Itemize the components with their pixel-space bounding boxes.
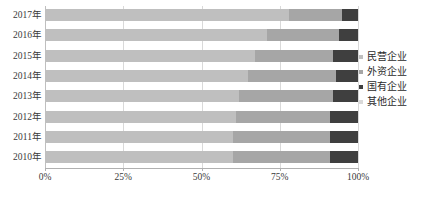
bar-segment-private (45, 70, 248, 82)
bar-segment-state-owned (330, 111, 358, 123)
x-tick-mark (280, 168, 281, 171)
bar-track (45, 29, 358, 41)
x-tick-label-100pct: 100% (335, 172, 381, 182)
legend-swatch-icon (359, 70, 363, 74)
bar-row (45, 151, 358, 163)
bar-segment-state-owned (339, 29, 358, 41)
legend-item[interactable]: 民营企业 (359, 49, 423, 64)
category-label-2016: 2016年 (0, 29, 42, 41)
bar-segment-private (45, 29, 267, 41)
plot-area (45, 6, 358, 168)
bar-row (45, 50, 358, 62)
bar-segment-foreign (267, 29, 339, 41)
category-label-2012: 2012年 (0, 111, 42, 123)
bar-segment-foreign (239, 90, 333, 102)
category-label-2010: 2010年 (0, 151, 42, 163)
bar-segment-private (45, 50, 255, 62)
bar-segment-state-owned (333, 50, 358, 62)
bar-track (45, 131, 358, 143)
bar-segment-state-owned (330, 131, 358, 143)
bar-track (45, 9, 358, 21)
bar-segment-private (45, 131, 233, 143)
bar-track (45, 50, 358, 62)
stacked-bar-chart: 民营企业外资企业国有企业其他企业 2017年2016年2015年2014年201… (0, 0, 423, 197)
bar-track (45, 111, 358, 123)
legend-label: 外资企业 (367, 64, 407, 79)
bar-row (45, 29, 358, 41)
legend-label: 国有企业 (367, 79, 407, 94)
legend-swatch-icon (359, 85, 363, 89)
bar-segment-foreign (289, 9, 342, 21)
category-label-2014: 2014年 (0, 70, 42, 82)
x-tick-mark (358, 168, 359, 171)
category-label-2015: 2015年 (0, 50, 42, 62)
x-tick-label-50pct: 50% (179, 172, 225, 182)
bar-row (45, 70, 358, 82)
bar-segment-foreign (255, 50, 333, 62)
x-tick-mark (45, 168, 46, 171)
bar-track (45, 90, 358, 102)
bar-segment-foreign (236, 111, 330, 123)
bar-segment-private (45, 111, 236, 123)
bar-segment-state-owned (330, 151, 358, 163)
bar-row (45, 9, 358, 21)
legend-item[interactable]: 国有企业 (359, 79, 423, 94)
bar-segment-private (45, 151, 233, 163)
legend-label: 民营企业 (367, 49, 407, 64)
bar-segment-foreign (248, 70, 336, 82)
legend-swatch-icon (359, 100, 363, 104)
legend-swatch-icon (359, 55, 363, 59)
category-label-2017: 2017年 (0, 9, 42, 21)
bar-track (45, 70, 358, 82)
chart-legend: 民营企业外资企业国有企业其他企业 (359, 49, 423, 109)
x-tick-mark (202, 168, 203, 171)
bar-segment-state-owned (333, 90, 358, 102)
bar-segment-state-owned (342, 9, 358, 21)
bar-segment-state-owned (336, 70, 358, 82)
bar-segment-foreign (233, 151, 330, 163)
bar-row (45, 111, 358, 123)
legend-item[interactable]: 外资企业 (359, 64, 423, 79)
bar-segment-foreign (233, 131, 330, 143)
bar-row (45, 131, 358, 143)
x-tick-mark (123, 168, 124, 171)
x-tick-label-0pct: 0% (22, 172, 68, 182)
x-tick-label-25pct: 25% (100, 172, 146, 182)
bar-track (45, 151, 358, 163)
legend-label: 其他企业 (367, 94, 407, 109)
bar-row (45, 90, 358, 102)
category-label-2011: 2011年 (0, 131, 42, 143)
bar-segment-private (45, 9, 289, 21)
bar-segment-private (45, 90, 239, 102)
legend-item[interactable]: 其他企业 (359, 94, 423, 109)
x-tick-label-75pct: 75% (257, 172, 303, 182)
category-label-2013: 2013年 (0, 90, 42, 102)
